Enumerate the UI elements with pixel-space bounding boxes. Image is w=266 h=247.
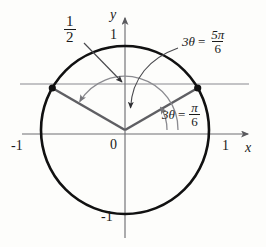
y-tick-minus-1: -1	[101, 210, 113, 224]
angle-5pi-6-equals: =	[198, 35, 205, 48]
angle-pi-6-denominator: 6	[189, 114, 200, 128]
angle-pi-6-equals: =	[178, 108, 185, 121]
one-half-denominator: 2	[64, 29, 76, 45]
radius-5pi-6	[52, 88, 125, 130]
label-one-half: 1 2	[63, 14, 77, 46]
angle-5pi-6-numerator: 5π	[209, 28, 226, 41]
angle-pi-6-lhs: 3θ	[162, 108, 175, 121]
x-axis-label: x	[245, 141, 251, 155]
x-tick-1: 1	[222, 139, 229, 153]
angle-5pi-6-denominator: 6	[212, 41, 223, 55]
angle-pi-6-numerator: π	[189, 101, 200, 114]
point-intersection-left	[49, 84, 56, 91]
x-tick-minus-1: -1	[11, 139, 23, 153]
label-angle-5pi-6: 3θ = 5π 6	[182, 28, 227, 56]
one-half-numerator: 1	[64, 14, 76, 29]
y-tick-1: 1	[110, 28, 117, 42]
point-intersection-right	[194, 84, 201, 91]
angle-5pi-6-lhs: 3θ	[182, 35, 195, 48]
label-angle-pi-6: 3θ = π 6	[162, 101, 201, 129]
origin-label: 0	[110, 138, 117, 152]
y-axis-label: y	[110, 8, 116, 22]
